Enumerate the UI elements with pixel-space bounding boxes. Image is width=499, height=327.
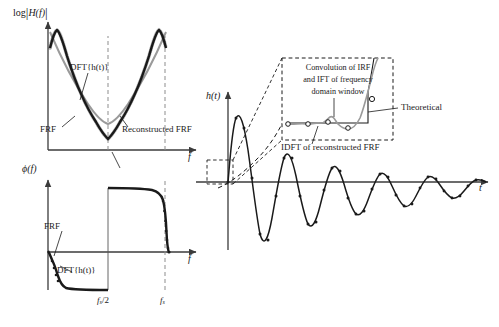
phase-x-axis-label: f [188,254,191,265]
magnitude-y-axis-label-body: H(f) [28,7,45,18]
theoretical-label: Theoretical [401,103,442,112]
inset-connector-upper [233,58,282,160]
magnitude-x-axis-label: f [188,152,191,163]
frf-leader-line [62,116,75,127]
phase-frf-label: FRF [44,222,60,231]
time-y-axis-label: h(t) [206,91,220,102]
inset-title-line-1: Convolution of IRF [288,64,388,73]
phase-xtick-fs: fs [160,296,165,306]
magnitude-frf-label: FRF [40,125,56,134]
magnitude-y-axis-label: log|H(f)| [13,6,48,20]
phase-upper-branch [108,188,169,251]
phase-top-leader-line [112,152,120,168]
time-x-axis-label: t [479,183,482,194]
magnitude-dft-label: DFT{h(t)} [70,63,109,72]
phase-y-axis-label: ϕ(f) [22,164,37,175]
phase-dft-label: DFT{h(t)} [57,266,96,275]
reconstructed-frf-label: Reconstructed FRF [122,125,192,134]
inset-title-line-2: and IFT of frequency [288,76,388,85]
phase-xtick-nyquist: fs/2 [97,296,109,306]
figure-canvas [0,0,499,327]
inset-title-line-3: domain window [288,88,388,97]
magnitude-plot [48,22,196,168]
inset-connector-lower [233,140,282,184]
dft-leader-line [80,73,88,100]
idft-reconstructed-label: IDFT of reconstructed FRF [281,143,380,152]
